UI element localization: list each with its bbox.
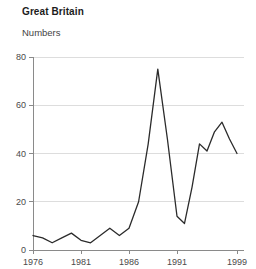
chart-card: Great Britain Numbers 020406080 19761981… [0, 0, 256, 269]
x-tick-label: 1991 [167, 257, 187, 267]
x-tick-label: 1999 [227, 257, 247, 267]
y-tick-label: 20 [16, 197, 26, 207]
x-tick-label: 1986 [119, 257, 139, 267]
line-chart-plot: 020406080 19761981198619911999 [0, 0, 256, 269]
y-tick-label: 80 [16, 52, 26, 62]
x-tick-label: 1976 [23, 257, 43, 267]
gridlines [33, 57, 244, 250]
y-tick-label: 0 [21, 245, 26, 255]
x-axis-ticks: 19761981198619911999 [23, 250, 247, 267]
data-series-great-britain [33, 69, 237, 243]
y-tick-label: 40 [16, 149, 26, 159]
y-tick-label: 60 [16, 100, 26, 110]
y-axis-ticks: 020406080 [16, 52, 33, 255]
x-tick-label: 1981 [71, 257, 91, 267]
